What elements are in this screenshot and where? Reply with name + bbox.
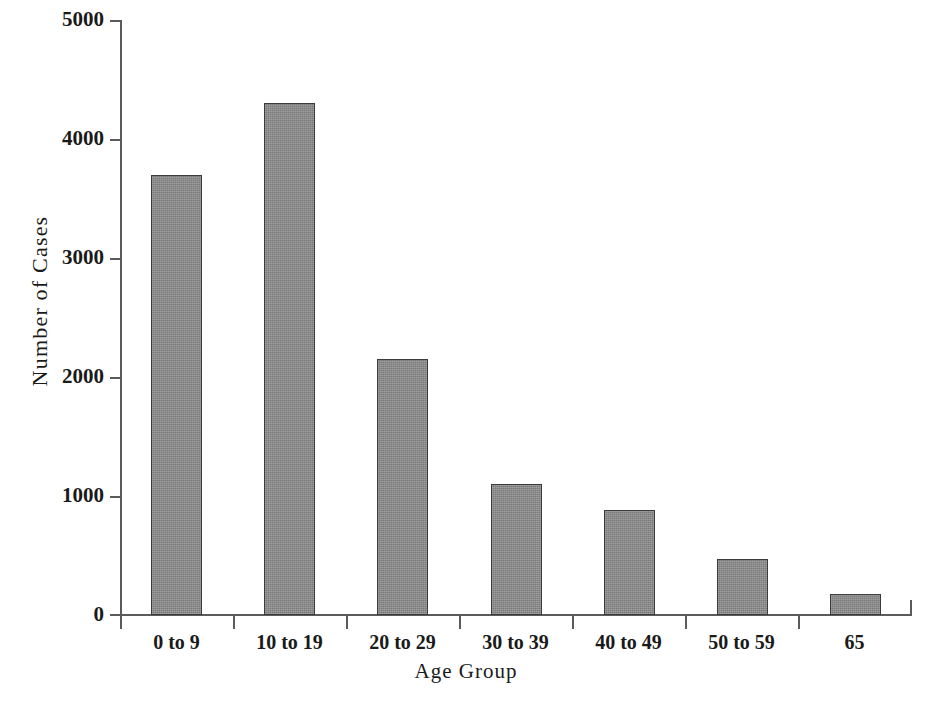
- plot-area: [120, 20, 912, 615]
- x-axis-tick-0: [120, 616, 122, 629]
- y-axis-tick-label-0: 0: [0, 604, 104, 625]
- bar-0-to-9: [151, 175, 202, 615]
- bar-30-to-39: [491, 484, 542, 615]
- x-axis-tick-1: [233, 616, 235, 629]
- x-axis-label-3: 30 to 39: [459, 632, 572, 652]
- x-axis-tick-4: [572, 616, 574, 629]
- bar-50-to-59: [717, 559, 768, 615]
- x-axis-label-6: 65: [798, 632, 911, 652]
- x-axis-tick-5: [685, 616, 687, 629]
- bar-65: [830, 594, 881, 615]
- bar-10-to-19: [264, 103, 315, 615]
- x-axis-label-2: 20 to 29: [346, 632, 459, 652]
- bar-chart: 5000 4000 3000 2000 1000 0 0 to 9 10 to …: [0, 0, 932, 704]
- x-axis-label-1: 10 to 19: [233, 632, 346, 652]
- x-axis-label-0: 0 to 9: [120, 632, 233, 652]
- bar-20-to-29: [377, 359, 428, 615]
- x-axis-label-4: 40 to 49: [572, 632, 685, 652]
- y-axis-tick-label-2000: 2000: [0, 366, 104, 387]
- x-axis-tick-2: [346, 616, 348, 629]
- y-axis-tick-label-5000: 5000: [0, 9, 104, 30]
- x-axis-label-5: 50 to 59: [685, 632, 798, 652]
- x-axis-tick-3: [459, 616, 461, 629]
- y-axis-tick-label-1000: 1000: [0, 485, 104, 506]
- y-axis-title: Number of Cases: [29, 151, 51, 451]
- x-axis-title: Age Group: [0, 661, 932, 682]
- y-axis-tick-label-4000: 4000: [0, 128, 104, 149]
- x-axis-tick-6: [798, 616, 800, 629]
- bar-40-to-49: [604, 510, 655, 615]
- y-axis-tick-label-3000: 3000: [0, 247, 104, 268]
